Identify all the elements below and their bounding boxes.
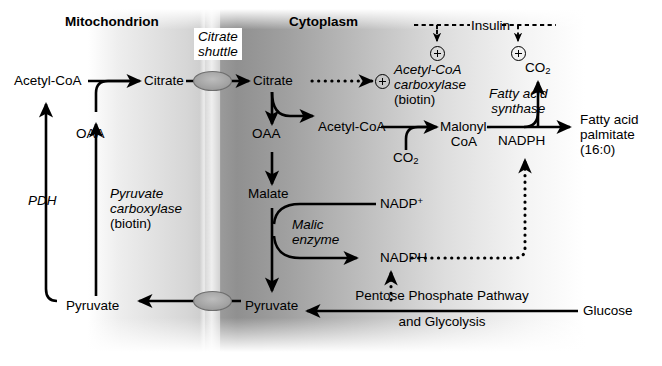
metabolite-malonyl-coa: Malonyl- CoA	[440, 119, 488, 149]
compartment-label-cytoplasm: Cytoplasm	[289, 14, 358, 29]
metabolite-malate: Malate	[248, 186, 289, 201]
cofactor-co2-synthase: CO2	[525, 60, 551, 77]
pathway-figure: activation of acetyl-CoA carboxylase -->…	[0, 0, 662, 366]
product-palmitate: Fatty acid palmitate (16:0)	[580, 112, 639, 157]
activation-symbol-acc	[430, 46, 445, 61]
arrow-oaa-into-citrate	[96, 81, 132, 112]
nadp-text: NADP	[380, 196, 418, 211]
enzyme-pyruvate-carboxylase: Pyruvate carboxylase (biotin)	[110, 186, 182, 231]
compartment-label-mitochondrion: Mitochondrion	[65, 14, 159, 29]
cofactor-nadph-synthase: NADPH	[498, 133, 545, 148]
hormone-insulin: Insulin	[471, 18, 510, 33]
activation-symbol-fas	[511, 46, 526, 61]
metabolite-oaa-cyto: OAA	[252, 126, 281, 141]
metabolite-acetyl-coa-cyto: Acetyl-CoA	[318, 119, 386, 134]
citrate-transporter-icon	[194, 72, 232, 91]
cofactor-co2-carboxylase: CO2	[393, 150, 419, 167]
enzyme-fatty-acid-synthase: Fatty acid synthase	[489, 86, 548, 116]
enzyme-acetyl-coa-carboxylase: Acetyl-CoA carboxylase (biotin)	[394, 62, 466, 107]
pathway-glycolysis-line2: and Glycolysis	[322, 314, 562, 329]
metabolite-pyruvate-cyto: Pyruvate	[245, 298, 298, 313]
pyruvate-transporter-icon	[194, 292, 232, 311]
metabolite-pyruvate-mito: Pyruvate	[66, 298, 119, 313]
enzyme-malic-enzyme: Malic enzyme	[292, 217, 339, 247]
pathway-ppp-glycolysis: Pentose Phosphate Pathway	[322, 288, 562, 303]
metabolite-acetyl-coa-mito: Acetyl-CoA	[14, 73, 82, 88]
arrow-citrate-to-acetylcoa-cyto	[272, 92, 313, 116]
arrow-nadph-supply	[412, 160, 525, 258]
enzyme-pdh: PDH	[28, 193, 57, 208]
citrate-shuttle-label: Citrate shuttle	[194, 28, 242, 60]
metabolite-oaa-mito: OAA	[76, 126, 105, 141]
metabolite-glucose: Glucose	[583, 303, 633, 318]
metabolite-citrate-cyto: Citrate	[253, 73, 293, 88]
cofactor-nadp-plus: NADP+	[380, 196, 423, 211]
activation-symbol-citrate	[375, 74, 390, 89]
cofactor-nadph-malic: NADPH	[380, 250, 427, 265]
arrow-co2-into-carboxylase	[406, 127, 430, 150]
metabolite-citrate-mito: Citrate	[144, 73, 184, 88]
